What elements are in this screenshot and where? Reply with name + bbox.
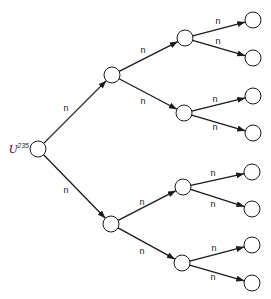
nucleus-node <box>244 237 260 253</box>
edge-label-neutron: n <box>210 199 215 209</box>
edge-label-neutron: n <box>212 122 217 132</box>
edges-group <box>44 22 246 281</box>
nucleus-node <box>245 12 261 28</box>
edge-label-neutron: n <box>215 36 220 46</box>
edge-arrow <box>44 155 106 219</box>
edge-label-neutron: n <box>140 45 145 55</box>
nucleus-node <box>103 216 119 232</box>
nucleus-node <box>245 50 261 66</box>
edge-labels-group: nnnnnnnnnnnnnn <box>63 16 220 282</box>
edge-label-neutron: n <box>212 94 217 104</box>
edge-arrow <box>191 189 245 206</box>
nucleus-node <box>244 275 260 291</box>
nucleus-node <box>245 125 261 141</box>
edge-arrow <box>119 79 177 110</box>
nucleus-node <box>175 179 191 195</box>
nucleus-node <box>104 67 120 83</box>
nucleus-node <box>174 255 190 271</box>
root-nucleus-node <box>30 141 46 157</box>
nucleus-node <box>176 105 192 121</box>
edge-arrow <box>118 228 175 259</box>
edge-label-neutron: n <box>139 197 144 207</box>
edge-label-neutron: n <box>63 185 68 195</box>
edge-label-neutron: n <box>211 243 216 253</box>
edge-label-neutron: n <box>63 103 68 113</box>
root-label-superscript: 235 <box>16 142 29 149</box>
root-label-uranium: U235 <box>9 142 29 156</box>
edge-label-neutron: n <box>210 272 215 282</box>
edge-arrow <box>44 81 107 144</box>
edge-label-neutron: n <box>210 168 215 178</box>
edge-arrow <box>119 42 178 72</box>
edge-label-neutron: n <box>215 16 220 26</box>
edge-arrow <box>191 174 244 186</box>
nucleus-node <box>245 88 261 104</box>
edge-label-neutron: n <box>140 96 145 106</box>
edge-label-neutron: n <box>139 246 144 256</box>
nucleus-node <box>244 164 260 180</box>
nucleus-node <box>177 30 193 46</box>
chain-reaction-diagram: nnnnnnnnnnnnnn U235 <box>0 0 271 299</box>
edge-arrow <box>192 115 246 131</box>
edge-arrow <box>190 265 245 281</box>
edge-arrow <box>118 191 176 221</box>
edge-arrow <box>190 247 245 261</box>
nucleus-node <box>244 201 260 217</box>
edge-arrow <box>192 98 245 111</box>
